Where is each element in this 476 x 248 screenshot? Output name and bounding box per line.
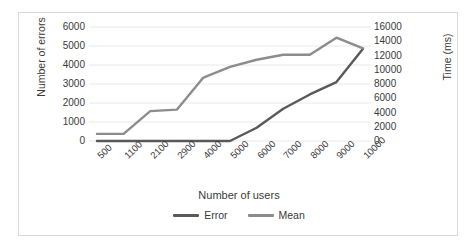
- y-axis-left-ticks: 6000500040003000200010000: [27, 13, 85, 237]
- x-axis-ticks: 5001100210029004000500060007000800090001…: [89, 147, 371, 191]
- plot-area: [89, 21, 371, 147]
- y-right-tick-5: 6000: [374, 93, 396, 103]
- series-line-error: [97, 49, 363, 141]
- legend-item-error[interactable]: Error: [173, 209, 227, 221]
- y-right-tick-3: 10000: [374, 65, 402, 75]
- y-left-tick-6: 0: [79, 136, 85, 146]
- legend-swatch-icon: [248, 214, 274, 217]
- chart-container: Number of errors Time (ms) 6000500040003…: [18, 12, 458, 236]
- y-right-tick-0: 16000: [374, 22, 402, 32]
- series-line-mean: [97, 38, 363, 134]
- y-left-tick-1: 5000: [63, 41, 85, 51]
- y-right-tick-6: 4000: [374, 108, 396, 118]
- legend-label: Mean: [279, 209, 305, 221]
- y-left-tick-0: 6000: [63, 22, 85, 32]
- chart-legend: ErrorMean: [19, 209, 459, 221]
- y-axis-right-ticks: 1600014000120001000080006000400020000: [374, 13, 424, 237]
- legend-label: Error: [204, 209, 227, 221]
- y-left-tick-2: 4000: [63, 60, 85, 70]
- y-left-tick-3: 3000: [63, 79, 85, 89]
- y-right-tick-4: 8000: [374, 79, 396, 89]
- y-right-tick-7: 2000: [374, 122, 396, 132]
- x-axis-title: Number of users: [19, 189, 459, 201]
- chart-svg: [89, 21, 371, 147]
- y-left-tick-4: 2000: [63, 98, 85, 108]
- y-left-tick-5: 1000: [63, 117, 85, 127]
- y-right-tick-2: 12000: [374, 51, 402, 61]
- y-right-tick-1: 14000: [374, 36, 402, 46]
- legend-item-mean[interactable]: Mean: [248, 209, 305, 221]
- legend-swatch-icon: [173, 214, 199, 217]
- y-axis-right-title: Time (ms): [441, 0, 453, 117]
